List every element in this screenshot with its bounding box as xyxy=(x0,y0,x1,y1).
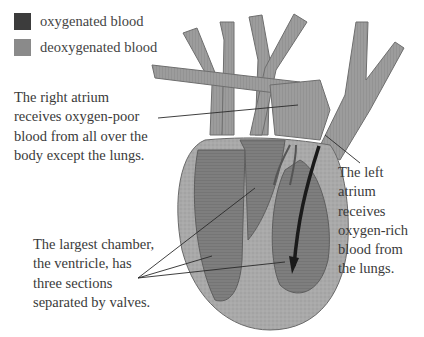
right-atrium-label: The right atrium receives oxygen-poor bl… xyxy=(14,88,148,165)
left-atrium-label: The left atrium receives oxygen-rich blo… xyxy=(338,163,408,279)
blood-vessels xyxy=(152,14,404,160)
ventricle-label: The largest chamber, the ventricle, has … xyxy=(33,235,154,312)
